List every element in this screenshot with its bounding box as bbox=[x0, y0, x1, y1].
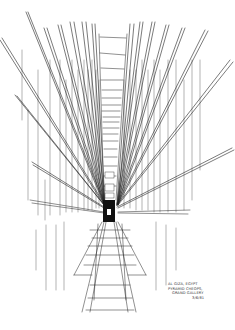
right-wall-verticals bbox=[124, 60, 200, 290]
far-doorway bbox=[103, 172, 115, 222]
right-corbel-lines bbox=[117, 22, 234, 208]
floor-ramp bbox=[74, 222, 146, 312]
left-corbel-lines bbox=[0, 12, 105, 208]
sketch-caption: Al Giza, Egypt Pyramid Cheops, Grand Gal… bbox=[168, 282, 232, 300]
left-wall-verticals bbox=[22, 50, 99, 290]
gallery-sketch bbox=[0, 0, 235, 330]
caption-date: 3/6/81 bbox=[168, 296, 232, 301]
